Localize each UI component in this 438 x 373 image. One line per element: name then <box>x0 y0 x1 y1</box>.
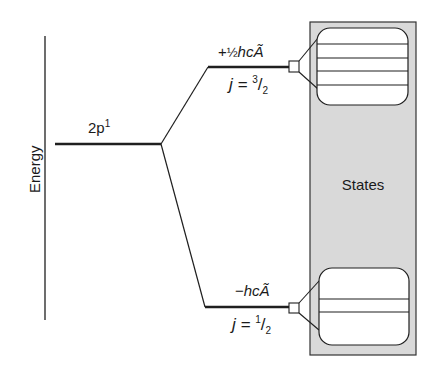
lower-j-prefix: j = <box>232 315 255 334</box>
lower-energy-label: −hcÃ <box>235 282 270 299</box>
energy-level-diagram: Energy 2p1 +½hcÃ j = 3/2 −hcÃ j = 1/2 St… <box>0 0 438 373</box>
upper-states-box <box>317 28 408 105</box>
energy-axis-label: Energy <box>25 153 45 193</box>
base-level-label: 2p1 <box>88 118 110 136</box>
lower-split-connector <box>161 144 205 307</box>
upper-j-label: j = 3/2 <box>229 74 268 96</box>
lower-energy-term: hcÃ <box>244 282 270 299</box>
upper-energy-label: +½hcÃ <box>218 43 263 60</box>
lower-magnifier-square <box>289 303 299 313</box>
lower-j-label: j = 1/2 <box>232 314 271 336</box>
base-level-superscript: 1 <box>105 118 111 129</box>
upper-j-prefix: j = <box>229 75 252 94</box>
states-label: States <box>310 176 416 193</box>
upper-energy-fraction: ½ <box>227 45 238 60</box>
upper-j-denominator: 2 <box>262 85 268 96</box>
upper-magnifier-square <box>289 61 299 72</box>
upper-energy-sign: + <box>218 43 227 60</box>
lower-states-box <box>319 268 409 345</box>
upper-split-connector <box>161 67 208 144</box>
lower-energy-sign: − <box>235 282 244 299</box>
base-level-term: 2p <box>88 119 105 136</box>
upper-energy-term: hcÃ <box>238 43 264 60</box>
lower-j-denominator: 2 <box>265 325 271 336</box>
